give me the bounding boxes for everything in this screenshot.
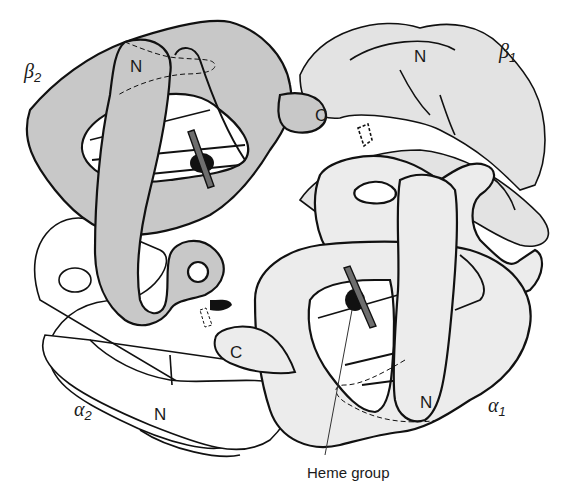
alpha2-helix-end [59, 268, 91, 292]
beta2-curl [188, 262, 208, 282]
label-beta2: β2 [23, 60, 42, 85]
beta1-heme-hidden [358, 124, 372, 146]
label-alpha1: α1 [488, 394, 506, 419]
label-beta2-c: C [315, 106, 327, 125]
heme-group-callout-label: Heme group [307, 464, 390, 481]
alpha2-heme-hidden-icon [200, 308, 212, 327]
alpha2-iron-icon [210, 300, 232, 311]
alpha1-small-loop [354, 182, 396, 204]
hemoglobin-diagram: β2 N β1 N C C α2 N N α1 Heme group [0, 0, 566, 503]
label-alpha2-c: C [230, 343, 242, 362]
label-alpha1-n: N [420, 393, 432, 412]
label-beta1: β1 [498, 40, 516, 65]
label-alpha2-n: N [154, 405, 166, 424]
label-beta1-n: N [414, 47, 426, 66]
diagram-canvas: β2 N β1 N C C α2 N N α1 Heme group [0, 0, 566, 503]
label-beta2-n: N [130, 57, 142, 76]
alpha2-heme-group [200, 300, 232, 327]
